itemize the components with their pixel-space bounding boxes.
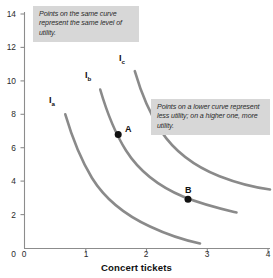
x-tick-label-0: 0 <box>17 249 31 259</box>
x-tick-label-4: 4 <box>261 249 273 259</box>
x-tick-label-2: 2 <box>139 249 153 259</box>
y-axis-ticks <box>21 14 25 215</box>
point-b-marker <box>185 196 192 203</box>
x-tick-label-3: 3 <box>200 249 214 259</box>
curve-label-ib-sub: b <box>88 75 92 82</box>
indifference-curves <box>65 71 270 243</box>
curve-label-ib: Ib <box>85 70 91 82</box>
data-points <box>115 131 192 203</box>
annotation-lower-curve: Points on a lower curve represent less u… <box>151 99 270 135</box>
indifference-curve-figure: 14 12 10 8 6 4 2 0 0 1 2 3 4 Concert tic… <box>0 0 273 278</box>
point-label-a: A <box>125 124 132 134</box>
curve-label-ia: Ia <box>49 95 55 107</box>
y-tick-label-8: 8 <box>0 109 16 119</box>
y-tick-label-14: 14 <box>0 9 16 19</box>
y-tick-label-12: 12 <box>0 42 16 52</box>
curve-label-ic: Ic <box>119 53 125 65</box>
y-tick-label-10: 10 <box>0 76 16 86</box>
y-tick-label-0: 0 <box>0 249 16 259</box>
curve-label-ia-sub: a <box>52 100 55 107</box>
x-axis-title: Concert tickets <box>0 262 273 273</box>
x-tick-label-1: 1 <box>79 249 93 259</box>
curve-label-ic-sub: c <box>122 58 125 65</box>
y-tick-label-2: 2 <box>0 210 16 220</box>
point-a-marker <box>115 131 122 138</box>
annotation-same-curve: Points on the same curve represent the s… <box>33 6 139 42</box>
point-label-b: B <box>185 185 192 195</box>
y-tick-label-6: 6 <box>0 143 16 153</box>
x-axis-ticks <box>86 249 268 253</box>
y-tick-label-4: 4 <box>0 176 16 186</box>
